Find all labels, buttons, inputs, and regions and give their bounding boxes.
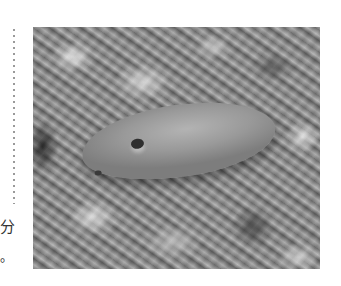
potato-blemish xyxy=(130,138,144,150)
sweet-potato xyxy=(77,92,280,190)
dotted-divider-line xyxy=(13,27,15,204)
body-text-fragment: 分 xyxy=(0,220,15,235)
potato-blemish-small xyxy=(94,170,102,176)
body-text-fragment-period: 。 xyxy=(0,250,13,263)
sweet-potato-photo xyxy=(33,27,320,269)
